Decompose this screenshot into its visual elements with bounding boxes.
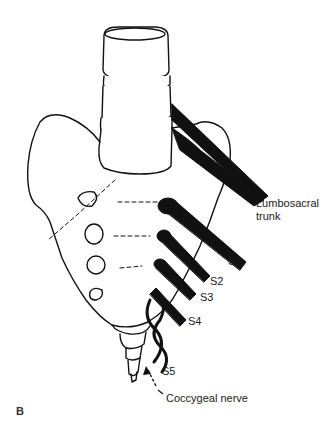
label-s3: S3 <box>200 291 213 303</box>
sacral-foramina <box>78 192 105 300</box>
arrow-icon <box>143 366 156 386</box>
label-s4: S4 <box>188 315 201 327</box>
label-s2: S2 <box>210 275 223 287</box>
vertebra-l5 <box>101 27 173 137</box>
label-s1: S1 <box>228 255 241 267</box>
lumbosacral-trunk-lower <box>172 128 264 206</box>
label-trunk: trunk <box>256 210 280 222</box>
label-lumbosacral: Lumbosacral <box>256 197 319 209</box>
label-s5: S5 <box>162 365 175 377</box>
label-coccygeal-nerve: Coccygeal nerve <box>166 392 248 404</box>
s5-coccygeal-nerves <box>147 292 166 372</box>
sacral-plexus-diagram: Lumbosacral trunk S1 S2 S3 S4 S5 Coccyge… <box>0 0 331 431</box>
panel-label: B <box>16 405 24 417</box>
s4-root <box>150 288 186 326</box>
